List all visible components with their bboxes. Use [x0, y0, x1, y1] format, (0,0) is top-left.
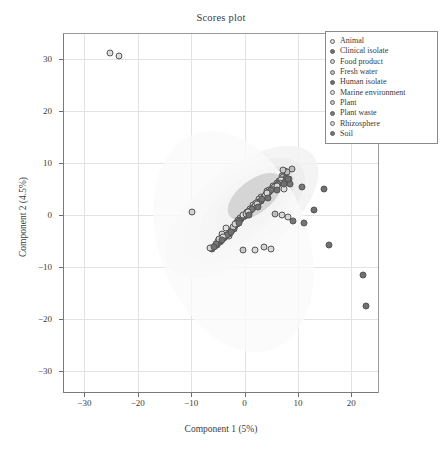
data-point — [325, 242, 332, 249]
data-point — [279, 167, 286, 174]
legend-item-label: Fresh water — [340, 67, 378, 77]
y-axis-tick-label: −20 — [0, 314, 52, 324]
x-axis-tick-label: −30 — [77, 398, 91, 408]
legend-item-label: Food product — [340, 57, 383, 67]
data-point — [301, 220, 308, 227]
y-axis-tick-label: 20 — [0, 106, 52, 116]
x-axis-tick — [245, 393, 246, 397]
x-axis-tick — [298, 393, 299, 397]
y-axis-tick — [59, 215, 63, 216]
legend-marker-icon — [330, 90, 335, 95]
data-point — [360, 272, 367, 279]
legend-item-label: Human isolate — [340, 77, 386, 87]
data-point — [255, 203, 262, 210]
x-axis-tick — [138, 393, 139, 397]
legend-item-label: Marine environment — [340, 88, 406, 98]
data-point — [320, 186, 327, 193]
data-point — [310, 206, 317, 213]
y-axis-tick — [59, 267, 63, 268]
gridline-vertical — [138, 33, 139, 392]
data-point — [363, 302, 370, 309]
y-axis-tick-label: −30 — [0, 366, 52, 376]
data-point — [219, 237, 226, 244]
data-point — [116, 52, 123, 59]
confidence-ellipse — [124, 108, 343, 374]
legend-item[interactable]: Human isolate — [330, 77, 432, 87]
y-axis-tick — [59, 111, 63, 112]
legend-marker-icon — [330, 121, 335, 126]
legend-marker-icon — [330, 39, 335, 44]
legend-marker-icon — [330, 111, 335, 116]
x-axis-tick — [191, 393, 192, 397]
legend-item-label: Soil — [340, 129, 353, 139]
x-axis-tick-label: −20 — [131, 398, 145, 408]
y-axis-tick-label: 30 — [0, 54, 52, 64]
legend[interactable]: AnimalClinical isolateFood productFresh … — [325, 31, 438, 144]
y-axis-tick — [59, 371, 63, 372]
data-point — [252, 247, 259, 254]
data-point — [285, 214, 292, 221]
y-axis-tick-label: 10 — [0, 158, 52, 168]
legend-item[interactable]: Food product — [330, 57, 432, 67]
legend-item-label: Plant waste — [340, 108, 377, 118]
legend-item[interactable]: Clinical isolate — [330, 46, 432, 56]
data-point — [106, 49, 113, 56]
legend-item[interactable]: Plant waste — [330, 108, 432, 118]
data-point — [245, 212, 252, 219]
legend-item[interactable]: Soil — [330, 129, 432, 139]
legend-marker-icon — [330, 80, 335, 85]
data-point — [260, 244, 267, 251]
legend-item-label: Plant — [340, 98, 356, 108]
data-point — [236, 220, 243, 227]
x-axis-tick — [84, 393, 85, 397]
data-point — [227, 228, 234, 235]
x-axis-tick — [351, 393, 352, 397]
data-point — [273, 187, 280, 194]
legend-item[interactable]: Rhizosphere — [330, 118, 432, 128]
x-axis-tick-label: 0 — [242, 398, 247, 408]
y-axis-line — [63, 33, 64, 393]
gridline-vertical — [84, 33, 85, 392]
scores-plot-figure: Scores plot Component 1 (5%) Component 2… — [0, 0, 442, 450]
x-axis-tick-label: 10 — [293, 398, 302, 408]
y-axis-tick-label: 0 — [0, 210, 52, 220]
x-axis-label: Component 1 (5%) — [0, 424, 442, 434]
legend-marker-icon — [330, 131, 335, 136]
legend-item[interactable]: Plant — [330, 98, 432, 108]
legend-marker-icon — [330, 70, 335, 75]
legend-marker-icon — [330, 49, 335, 54]
x-axis-tick-label: −10 — [184, 398, 198, 408]
x-axis-tick-label: 20 — [347, 398, 356, 408]
chart-title: Scores plot — [0, 12, 442, 23]
legend-item-label: Clinical isolate — [340, 46, 388, 56]
data-point — [288, 166, 295, 173]
y-axis-tick — [59, 59, 63, 60]
legend-item[interactable]: Fresh water — [330, 67, 432, 77]
data-point — [299, 184, 306, 191]
x-axis-line — [63, 392, 379, 393]
data-point — [285, 175, 292, 182]
legend-item-label: Animal — [340, 36, 364, 46]
legend-item[interactable]: Animal — [330, 36, 432, 46]
y-axis-tick — [59, 319, 63, 320]
gridline-horizontal — [63, 371, 378, 372]
legend-item[interactable]: Marine environment — [330, 87, 432, 97]
data-point — [189, 208, 196, 215]
data-point — [210, 244, 217, 251]
data-point — [268, 246, 275, 253]
data-point — [240, 247, 247, 254]
data-point — [265, 195, 272, 202]
legend-marker-icon — [330, 59, 335, 64]
legend-marker-icon — [330, 100, 335, 105]
y-axis-tick-label: −10 — [0, 262, 52, 272]
legend-item-label: Rhizosphere — [340, 119, 380, 129]
y-axis-tick — [59, 163, 63, 164]
